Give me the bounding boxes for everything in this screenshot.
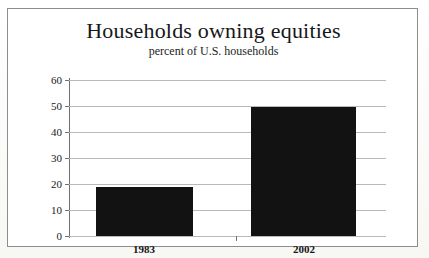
plot-area: 0 10 20 30 40 50 [69,80,386,236]
y-tick-60 [65,80,69,81]
x-axis-label-1983: 1983 [133,243,155,255]
y-tick-40 [65,132,69,133]
chart-title: Households owning equities [8,18,419,44]
y-tick-0 [65,236,69,237]
chart-frame: Households owning equities percent of U.… [7,8,418,247]
x-axis-center-tick [236,236,237,241]
chart-screenshot: Households owning equities percent of U.… [0,0,429,258]
y-axis-label-0: 0 [57,231,63,242]
y-axis-label-50: 50 [51,101,62,112]
gridline-60: 60 [69,80,386,81]
x-axis-label-2002: 2002 [293,243,315,255]
y-tick-30 [65,158,69,159]
chart-subtitle: percent of U.S. households [8,44,419,59]
y-axis-label-40: 40 [51,127,62,138]
y-axis-label-30: 30 [51,153,62,164]
gridline-0: 0 [69,236,386,237]
y-axis-label-10: 10 [51,205,62,216]
y-axis-label-60: 60 [51,75,62,86]
bar-1983 [96,187,193,236]
y-tick-50 [65,106,69,107]
y-axis-label-20: 20 [51,179,62,190]
y-tick-20 [65,184,69,185]
y-tick-10 [65,210,69,211]
bar-2002 [251,107,356,236]
